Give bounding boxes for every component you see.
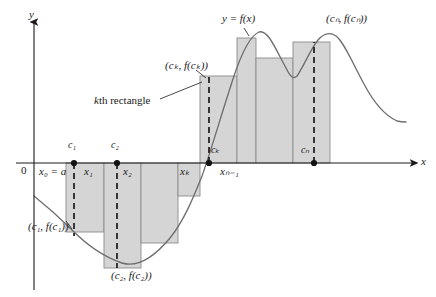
origin-label: 0 bbox=[21, 165, 27, 176]
rectangles-positive bbox=[200, 38, 330, 163]
y-axis-label: y bbox=[29, 9, 34, 20]
xk-label: xₙ₋₁ bbox=[220, 166, 239, 177]
rect-k-plus-2 bbox=[256, 58, 293, 163]
ck-label: cₖ bbox=[211, 145, 219, 155]
leader-kth-rect bbox=[160, 82, 202, 99]
leader-curve-label bbox=[244, 28, 249, 36]
c2-label: c₂ bbox=[111, 140, 119, 150]
rectangles-negative bbox=[66, 163, 200, 268]
rect-n bbox=[293, 42, 330, 163]
dot-c2 bbox=[114, 160, 120, 166]
c1-point-label: (c₁, f(c₁)) bbox=[28, 221, 69, 232]
ck-point-label: (cₖ, f(cₖ)) bbox=[165, 60, 208, 71]
c2-point-label: (c₂, f(c₂)) bbox=[111, 270, 152, 281]
x2-label: x₂ bbox=[123, 166, 132, 177]
dot-ck bbox=[206, 160, 212, 166]
cn-point-label: (cₙ, f(cₙ)) bbox=[326, 13, 367, 24]
riemann-sum-figure: y x 0 c₁ c₂ cₖ cₙ x₀ = a x₁ x₂ xₖ xₙ₋₁ y… bbox=[0, 0, 436, 297]
x0-label: x₀ = a bbox=[39, 166, 66, 177]
x-axis-label: x bbox=[421, 156, 426, 167]
rect-k-plus-1 bbox=[237, 38, 256, 163]
xk-minus-1-label: xₖ bbox=[180, 166, 190, 177]
kth-rectangle-label: kth rectangle bbox=[94, 95, 151, 106]
x1-label: x₁ bbox=[84, 166, 93, 177]
cn-label: cₙ bbox=[301, 145, 309, 155]
curve-label: y = f(x) bbox=[222, 13, 255, 24]
rect-2 bbox=[104, 163, 141, 268]
c1-label: c₁ bbox=[68, 140, 76, 150]
dot-c1 bbox=[71, 160, 77, 166]
rect-3 bbox=[141, 163, 178, 243]
dot-cn bbox=[311, 160, 317, 166]
